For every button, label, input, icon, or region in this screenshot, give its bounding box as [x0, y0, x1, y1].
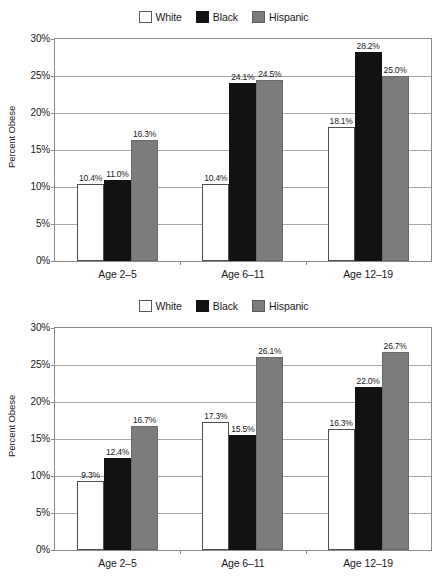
bar-value-label: 16.7% [133, 415, 156, 425]
bar-black-group-3: 22.0% [355, 387, 382, 550]
bar-value-label: 26.7% [384, 341, 407, 351]
y-tick-label: 25% [31, 70, 50, 81]
y-tick-mark [51, 550, 55, 551]
y-axis-title-top-text: Percent Obese [6, 106, 17, 168]
bar-white-group-3: 18.1% [328, 127, 355, 261]
y-tick-mark [51, 113, 55, 114]
plot-wrap-top: Percent Obese 0%5%10%15%20%25%30%10.4%11… [0, 0, 447, 288]
y-tick-mark [51, 261, 55, 262]
x-category-label: Age 6–11 [221, 268, 264, 280]
plot-area-top: 0%5%10%15%20%25%30%10.4%11.0%16.3%Age 2–… [54, 38, 432, 262]
x-category-label: Age 12–19 [343, 268, 393, 280]
bar-white-group-1: 9.3% [77, 481, 104, 550]
bar-hispanic-group-3: 26.7% [382, 352, 409, 550]
y-tick-label: 0% [36, 544, 50, 555]
y-tick-label: 25% [31, 359, 50, 370]
y-tick-mark [51, 365, 55, 366]
y-tick-label: 30% [31, 322, 50, 333]
y-tick-mark [51, 187, 55, 188]
bar-black-group-1: 12.4% [104, 458, 131, 550]
y-tick-label: 30% [31, 33, 50, 44]
bar-hispanic-group-3: 25.0% [382, 76, 409, 261]
bar-value-label: 25.0% [384, 65, 407, 75]
y-tick-label: 15% [31, 144, 50, 155]
plot-wrap-bottom: Percent Obese 0%5%10%15%20%25%30%9.3%12.… [0, 289, 447, 577]
bar-white-group-1: 10.4% [77, 184, 104, 261]
y-tick-label: 0% [36, 255, 50, 266]
bar-value-label: 10.4% [204, 173, 227, 183]
bar-value-label: 24.5% [258, 69, 281, 79]
y-tick-label: 20% [31, 396, 50, 407]
bar-value-label: 11.0% [106, 169, 128, 179]
bar-value-label: 9.3% [81, 470, 100, 480]
bar-value-label: 12.4% [106, 447, 129, 457]
y-tick-mark [51, 513, 55, 514]
bar-value-label: 17.3% [204, 411, 227, 421]
x-category-label: Age 6–11 [221, 557, 264, 569]
y-tick-mark [51, 476, 55, 477]
plot-area-bottom: 0%5%10%15%20%25%30%9.3%12.4%16.7%Age 2–5… [54, 327, 432, 551]
chart-page: White Black Hispanic Percent Obese 0%5%1… [0, 0, 447, 577]
bar-black-group-2: 15.5% [229, 435, 256, 550]
bar-value-label: 16.3% [330, 418, 353, 428]
y-axis-title-bottom: Percent Obese [6, 385, 17, 399]
y-tick-mark [51, 150, 55, 151]
y-tick-label: 10% [31, 470, 50, 481]
bar-value-label: 18.1% [330, 116, 353, 126]
y-tick-mark [51, 39, 55, 40]
bar-value-label: 22.0% [357, 376, 380, 386]
y-tick-mark [51, 76, 55, 77]
y-tick-mark [51, 439, 55, 440]
bar-black-group-3: 28.2% [355, 52, 382, 261]
x-tick-mark [306, 261, 307, 265]
bar-value-label: 28.2% [357, 41, 380, 51]
x-tick-mark [180, 261, 181, 265]
y-tick-label: 5% [36, 507, 50, 518]
y-tick-label: 5% [36, 218, 50, 229]
bar-value-label: 10.4% [79, 173, 102, 183]
y-tick-mark [51, 402, 55, 403]
y-tick-label: 20% [31, 107, 50, 118]
x-category-label: Age 2–5 [98, 268, 136, 280]
bar-value-label: 24.1% [231, 72, 254, 82]
bar-hispanic-group-2: 24.5% [256, 80, 283, 261]
x-category-label: Age 2–5 [98, 557, 136, 569]
bar-hispanic-group-2: 26.1% [256, 357, 283, 550]
bar-value-label: 16.3% [133, 129, 156, 139]
y-tick-label: 10% [31, 181, 50, 192]
y-tick-label: 15% [31, 433, 50, 444]
bar-black-group-1: 11.0% [104, 180, 131, 261]
y-axis-title-top: Percent Obese [6, 96, 17, 110]
bar-white-group-2: 10.4% [202, 184, 229, 261]
y-axis-title-bottom-text: Percent Obese [6, 395, 17, 457]
gridline [55, 365, 431, 366]
x-tick-mark [180, 550, 181, 554]
bar-black-group-2: 24.1% [229, 83, 256, 261]
bar-value-label: 26.1% [258, 346, 281, 356]
x-category-label: Age 12–19 [343, 557, 393, 569]
bar-hispanic-group-1: 16.3% [131, 140, 158, 261]
chart-top: White Black Hispanic Percent Obese 0%5%1… [0, 0, 447, 288]
x-tick-mark [306, 550, 307, 554]
y-tick-mark [51, 328, 55, 329]
bar-white-group-3: 16.3% [328, 429, 355, 550]
chart-bottom: White Black Hispanic Percent Obese 0%5%1… [0, 289, 447, 577]
bar-value-label: 15.5% [231, 424, 254, 434]
y-tick-mark [51, 224, 55, 225]
bar-hispanic-group-1: 16.7% [131, 426, 158, 550]
bar-white-group-2: 17.3% [202, 422, 229, 550]
